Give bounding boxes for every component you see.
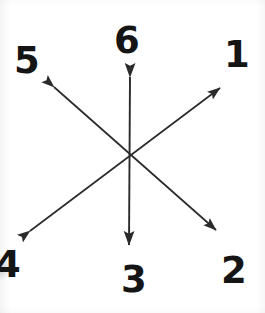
arrow-line-4-to-1 (30, 88, 220, 231)
arrow-diagram-figure: 6 5 1 4 3 2 (0, 0, 265, 313)
arrow-line-6-to-3 (129, 77, 130, 245)
axis-label-5: 5 (14, 42, 40, 79)
axis-label-6: 6 (114, 22, 140, 59)
axis-label-4: 4 (0, 246, 21, 283)
axis-label-1: 1 (224, 36, 250, 73)
axis-label-2: 2 (221, 252, 247, 289)
axis-label-3: 3 (121, 261, 147, 298)
